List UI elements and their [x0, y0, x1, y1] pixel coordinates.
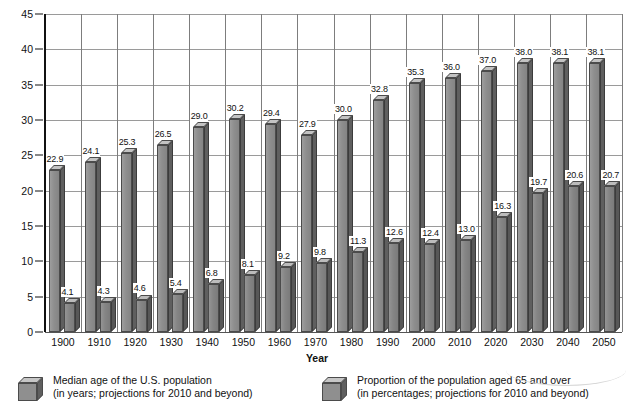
bar-side-face — [327, 258, 332, 332]
bar-front-face — [193, 127, 204, 332]
bar-value-label: 5.4 — [169, 278, 183, 288]
y-axis-tick-label: 0 — [27, 326, 33, 338]
legend-label-median-age: Median age of the U.S. population (in ye… — [53, 374, 253, 400]
bar-front-face — [100, 302, 111, 332]
bar-front-face — [409, 83, 420, 332]
bar-front-face — [121, 153, 132, 332]
x-axis-tick-label: 2010 — [448, 336, 471, 348]
bar-median-age — [481, 71, 492, 332]
legend-label-line2: (in percentages; projections for 2010 an… — [357, 387, 589, 400]
bar-front-face — [265, 124, 276, 332]
y-axis-tick-mark — [35, 120, 43, 121]
bar-median-age — [157, 145, 168, 332]
bar-front-face — [496, 217, 507, 332]
bar-value-label: 30.0 — [334, 104, 353, 114]
bar-median-age — [85, 162, 96, 332]
y-axis-tick-label: 25 — [21, 149, 33, 161]
bar-value-label: 4.1 — [61, 287, 75, 297]
bar-median-age — [553, 63, 564, 332]
bar-value-label: 20.7 — [601, 170, 620, 180]
bar-value-label: 26.5 — [154, 129, 173, 139]
bar-front-face — [589, 63, 600, 332]
y-axis-tick-mark — [35, 84, 43, 85]
legend-item-proportion-65: Proportion of the population aged 65 and… — [322, 374, 589, 401]
bar-front-face — [532, 193, 543, 332]
bar-value-label: 12.4 — [421, 228, 440, 238]
bar-value-label: 38.0 — [514, 47, 533, 57]
bar-side-face — [291, 262, 296, 332]
bar-value-label: 4.3 — [97, 286, 111, 296]
bar-median-age — [337, 120, 348, 332]
legend-label-line1: Proportion of the population aged 65 and… — [357, 374, 571, 386]
bar-front-face — [553, 63, 564, 332]
bar-front-face — [445, 78, 456, 332]
bar-front-face — [49, 170, 60, 332]
x-axis-tick-label: 1900 — [51, 336, 74, 348]
x-axis-tick-label: 2030 — [520, 336, 543, 348]
legend-label-line1: Median age of the U.S. population — [53, 374, 212, 386]
bar-front-face — [301, 135, 312, 332]
x-axis-title: Year — [0, 352, 634, 364]
bar-side-face — [507, 212, 512, 332]
bar-median-age — [49, 170, 60, 332]
x-axis-tick-label: 1980 — [340, 336, 363, 348]
x-axis-tick-label: 1940 — [196, 336, 219, 348]
x-axis-tick-label: 1960 — [268, 336, 291, 348]
gridline — [189, 14, 190, 332]
bar-proportion-65 — [568, 186, 579, 332]
bar-value-label: 27.9 — [298, 119, 317, 129]
bar-proportion-65 — [280, 267, 291, 332]
bar-front-face — [64, 303, 75, 332]
bar-value-label: 36.0 — [442, 62, 461, 72]
bar-front-face — [481, 71, 492, 332]
bar-value-label: 37.0 — [478, 55, 497, 65]
bar-proportion-65 — [352, 252, 363, 332]
y-axis-tick-label: 5 — [27, 291, 33, 303]
bar-side-face — [543, 188, 548, 332]
bar-chart: 051015202530354045 22.94.124.14.325.34.6… — [0, 0, 634, 414]
legend-label-line2: (in years; projections for 2010 and beyo… — [53, 387, 253, 400]
bar-front-face — [337, 120, 348, 332]
legend-cube-icon — [18, 377, 44, 401]
bar-value-label: 19.7 — [529, 177, 548, 187]
bar-value-label: 32.8 — [370, 84, 389, 94]
bar-proportion-65 — [604, 186, 615, 332]
bar-value-label: 16.3 — [493, 201, 512, 211]
bar-front-face — [172, 294, 183, 332]
bar-proportion-65 — [208, 284, 219, 332]
bar-value-label: 24.1 — [82, 146, 101, 156]
bar-value-label: 38.1 — [586, 47, 605, 57]
bar-value-label: 9.8 — [313, 247, 327, 257]
y-axis-line — [44, 14, 46, 332]
bar-median-age — [517, 63, 528, 332]
bar-front-face — [352, 252, 363, 332]
bar-side-face — [471, 235, 476, 332]
bar-front-face — [136, 300, 147, 333]
bar-proportion-65 — [496, 217, 507, 332]
bar-value-label: 9.2 — [277, 251, 291, 261]
gridline — [514, 14, 515, 332]
x-axis-tick-label: 1950 — [232, 336, 255, 348]
y-axis-tick-label: 40 — [21, 43, 33, 55]
bar-value-label: 13.0 — [457, 224, 476, 234]
bar-median-age — [373, 100, 384, 332]
bar-proportion-65 — [172, 294, 183, 332]
y-axis-tick-mark — [35, 296, 43, 297]
bar-side-face — [75, 298, 80, 332]
bar-proportion-65 — [388, 243, 399, 332]
x-axis-tick-label: 1990 — [376, 336, 399, 348]
bar-median-age — [121, 153, 132, 332]
y-axis-tick-label: 20 — [21, 185, 33, 197]
bar-value-label: 22.9 — [46, 154, 65, 164]
bar-median-age — [445, 78, 456, 332]
bar-proportion-65 — [424, 244, 435, 332]
bar-front-face — [604, 186, 615, 332]
gridline — [225, 14, 226, 332]
y-axis-tick-mark — [35, 226, 43, 227]
x-axis-tick-label: 2020 — [484, 336, 507, 348]
bar-side-face — [219, 279, 224, 332]
x-axis-tick-label: 2000 — [412, 336, 435, 348]
bar-median-age — [229, 119, 240, 332]
bar-side-face — [399, 238, 404, 332]
bar-proportion-65 — [532, 193, 543, 332]
